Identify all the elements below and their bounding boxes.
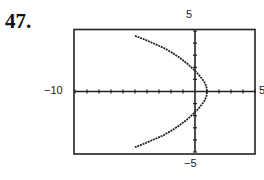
graph-window <box>0 0 264 180</box>
axes <box>75 31 255 152</box>
